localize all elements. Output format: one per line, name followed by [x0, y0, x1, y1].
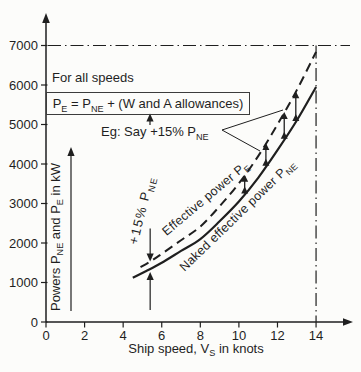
y-tick-label: 0: [31, 315, 38, 330]
chart-figure: 0100020003000400050006000700002468101214…: [0, 0, 361, 372]
y-axis-arrowhead-icon: [42, 13, 50, 23]
y-tick-label: 2000: [9, 236, 38, 251]
x-axis-label: Ship speed, VS in knots: [128, 342, 263, 356]
gap-down-arrowhead-icon: [147, 253, 154, 261]
x-tick-label: 0: [42, 328, 49, 343]
y-axis-label: Powers PNE and PE in kW: [49, 163, 63, 311]
y-tick-label: 1000: [9, 275, 38, 290]
x-tick-label: 12: [270, 328, 284, 343]
y-tick-label: 3000: [9, 196, 38, 211]
y-tick-label: 7000: [9, 38, 38, 53]
y-tick-label: 5000: [9, 117, 38, 132]
x-axis-arrowhead-icon: [343, 318, 353, 326]
formula-text: PE = PNE + (W and A allowances): [53, 96, 244, 111]
pointer-line-lower: [222, 130, 260, 151]
gap-up-arrowhead-icon: [147, 272, 154, 280]
x-tick-label: 2: [81, 328, 88, 343]
x-tick-label: 4: [120, 328, 127, 343]
formula-box: PE = PNE + (W and A allowances): [46, 92, 250, 115]
y-tick-label: 6000: [9, 78, 38, 93]
x-tick-label: 14: [309, 328, 323, 343]
y-direction-arrowhead-icon: [67, 147, 74, 156]
annotation-example: Eg: Say +15% PNE: [101, 125, 209, 139]
y-tick-label: 4000: [9, 157, 38, 172]
annotation-for-all-speeds: For all speeds: [52, 71, 134, 85]
allowance-arrowhead-icon: [241, 186, 248, 193]
